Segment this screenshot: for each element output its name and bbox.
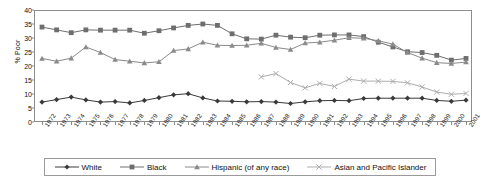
y-tick-label: 25 xyxy=(10,49,32,56)
data-point-diamond xyxy=(273,100,278,105)
data-point-diamond xyxy=(142,98,147,103)
data-point-diamond xyxy=(346,98,351,103)
data-point-diamond xyxy=(376,96,381,101)
data-point-square xyxy=(142,31,147,36)
y-axis-tick-labels: 0510152025303540 xyxy=(6,10,32,122)
data-point-x xyxy=(288,80,293,85)
legend-item-asian-and-pacific-islander[interactable]: Asian and Pacific Islander xyxy=(306,162,426,172)
legend-marker-triangle xyxy=(184,162,210,172)
data-point-square xyxy=(332,33,337,38)
data-point-square xyxy=(420,50,425,55)
y-tick-label: 30 xyxy=(10,35,32,42)
data-point-diamond xyxy=(405,96,410,101)
data-point-diamond xyxy=(361,96,366,101)
data-point-diamond xyxy=(39,100,44,105)
series-line xyxy=(42,38,466,64)
data-point-square xyxy=(157,28,162,33)
data-point-diamond xyxy=(288,101,293,106)
data-point-diamond xyxy=(420,96,425,101)
data-point-square xyxy=(274,33,279,38)
data-point-square xyxy=(171,26,176,31)
data-point-square xyxy=(186,23,191,28)
legend-marker-x xyxy=(306,162,332,172)
data-point-diamond xyxy=(463,98,468,103)
data-point-diamond xyxy=(69,94,74,99)
data-point-square xyxy=(200,22,205,27)
data-point-square xyxy=(54,27,59,32)
data-point-diamond xyxy=(186,91,191,96)
y-tick-label: 35 xyxy=(10,21,32,28)
data-point-diamond xyxy=(98,100,103,105)
legend-label: White xyxy=(82,163,102,172)
series-hispanic-of-any-race xyxy=(39,35,469,66)
data-point-x xyxy=(303,85,308,90)
data-point-diamond xyxy=(303,99,308,104)
data-point-x xyxy=(420,84,425,89)
legend-label: Asian and Pacific Islander xyxy=(334,163,426,172)
data-point-diamond xyxy=(113,99,118,104)
data-point-square xyxy=(69,30,74,35)
data-point-diamond xyxy=(259,99,264,104)
data-point-square xyxy=(113,28,118,33)
data-point-square xyxy=(127,28,132,33)
data-point-diamond xyxy=(156,95,161,100)
data-point-square xyxy=(288,35,293,40)
data-point-diamond xyxy=(332,98,337,103)
data-point-square xyxy=(303,35,308,40)
series-white xyxy=(39,91,468,106)
data-point-diamond xyxy=(171,92,176,97)
chart-legend: WhiteBlackHispanic (of any race)Asian an… xyxy=(44,158,436,176)
data-point-square xyxy=(434,53,439,58)
x-axis-tick-labels: 1972197319741975197619771978197919801981… xyxy=(34,123,472,153)
data-point-diamond xyxy=(229,99,234,104)
data-point-diamond xyxy=(83,97,88,102)
data-point-diamond xyxy=(215,98,220,103)
y-tick-label: 5 xyxy=(10,105,32,112)
legend-label: Hispanic (of any race) xyxy=(212,163,290,172)
data-point-diamond xyxy=(390,96,395,101)
data-point-diamond xyxy=(317,98,322,103)
data-point-square xyxy=(83,27,88,32)
data-point-diamond xyxy=(434,98,439,103)
legend-marker-square xyxy=(119,162,145,172)
data-point-diamond xyxy=(64,164,69,169)
data-point-square xyxy=(317,33,322,38)
legend-label: Black xyxy=(147,163,167,172)
data-point-triangle xyxy=(39,56,45,61)
data-point-square xyxy=(230,31,235,36)
data-point-triangle xyxy=(200,39,206,44)
legend-item-white[interactable]: White xyxy=(54,162,102,172)
y-tick-label: 20 xyxy=(10,63,32,70)
series-black xyxy=(40,22,469,63)
data-point-diamond xyxy=(127,100,132,105)
data-point-triangle xyxy=(83,44,89,49)
series-line xyxy=(42,94,466,104)
data-point-square xyxy=(130,165,135,170)
data-point-square xyxy=(244,36,249,41)
data-point-square xyxy=(215,23,220,28)
data-point-square xyxy=(98,28,103,33)
data-point-triangle xyxy=(185,46,191,51)
data-point-diamond xyxy=(449,99,454,104)
data-point-square xyxy=(40,25,45,30)
data-point-triangle xyxy=(112,57,118,62)
y-tick-label: 40 xyxy=(10,7,32,14)
data-point-diamond xyxy=(54,97,59,102)
legend-item-hispanic-of-any-race[interactable]: Hispanic (of any race) xyxy=(184,162,290,172)
series-asian-and-pacific-islander xyxy=(259,71,469,97)
data-point-diamond xyxy=(244,99,249,104)
series-layer xyxy=(34,10,472,122)
legend-item-black[interactable]: Black xyxy=(119,162,167,172)
y-tick-label: 10 xyxy=(10,91,32,98)
y-tick-label: 0 xyxy=(10,119,32,126)
y-tick-label: 15 xyxy=(10,77,32,84)
legend-marker-diamond xyxy=(54,162,80,172)
data-point-diamond xyxy=(200,95,205,100)
